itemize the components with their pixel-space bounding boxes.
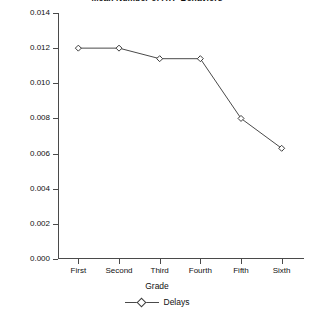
data-point-marker xyxy=(197,56,203,62)
data-point-marker xyxy=(116,45,122,51)
series-delays xyxy=(0,0,314,316)
series-markers xyxy=(75,45,284,151)
chart-container: Mean Number of ATP Behaviors 0.0000.0020… xyxy=(0,0,314,316)
data-point-marker xyxy=(157,56,163,62)
series-line xyxy=(78,48,281,148)
x-axis-title: Grade xyxy=(0,281,314,291)
data-point-marker xyxy=(75,45,81,51)
legend-swatch-delays xyxy=(125,298,159,307)
legend-label-delays: Delays xyxy=(164,297,190,307)
chart-legend: Delays xyxy=(0,297,314,307)
legend-diamond-icon xyxy=(136,297,146,307)
